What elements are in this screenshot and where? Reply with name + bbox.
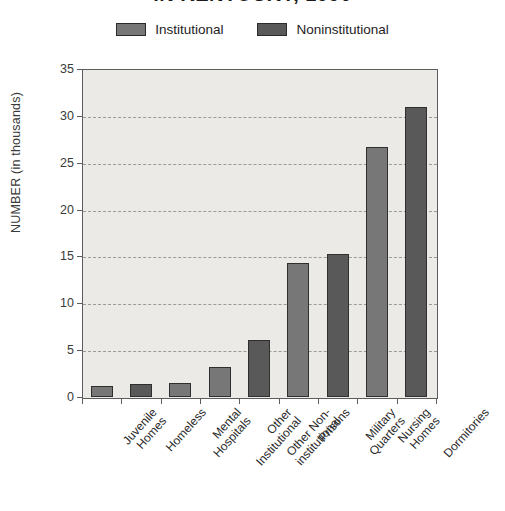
x-axis-tick <box>436 398 437 404</box>
y-axis-tick-label: 30 <box>48 109 74 123</box>
x-axis-tick-label: Dormitories <box>441 406 492 460</box>
bar <box>248 340 270 397</box>
chart-title: IN KENTUCKY, 1990 <box>0 0 505 6</box>
x-axis-tick <box>161 398 162 404</box>
y-axis-tick-label: 5 <box>48 343 74 357</box>
chart-page: IN KENTUCKY, 1990 Institutional Noninsti… <box>0 0 505 511</box>
x-axis-tick <box>397 398 398 404</box>
y-axis-tick-label: 25 <box>48 156 74 170</box>
legend-entry-noninstitutional: Noninstitutional <box>257 22 388 37</box>
y-axis-tick <box>77 116 82 117</box>
y-axis-tick <box>77 163 82 164</box>
x-axis-tick <box>200 398 201 404</box>
x-axis-tick <box>82 398 83 404</box>
y-axis-tick <box>77 350 82 351</box>
bar <box>327 254 349 397</box>
x-axis-tick <box>357 398 358 404</box>
y-axis-title: NUMBER (in thousands) <box>9 92 23 233</box>
x-axis-tick <box>318 398 319 404</box>
legend-swatch-institutional <box>116 23 146 36</box>
y-axis-tick-label: 35 <box>48 62 74 76</box>
legend-swatch-noninstitutional <box>257 23 287 36</box>
chart-legend: Institutional Noninstitutional <box>0 22 505 37</box>
y-axis-tick <box>77 303 82 304</box>
y-axis-tick-label: 15 <box>48 249 74 263</box>
legend-entry-institutional: Institutional <box>116 22 223 37</box>
legend-label-noninstitutional: Noninstitutional <box>296 22 388 37</box>
bar <box>91 386 113 397</box>
bar <box>209 367 231 397</box>
bar <box>169 383 191 397</box>
x-axis-tick-label: NursingHomes <box>395 406 442 454</box>
x-axis-tick <box>121 398 122 404</box>
bar <box>287 263 309 397</box>
bar <box>405 107 427 398</box>
y-axis-tick-label: 10 <box>48 296 74 310</box>
bar <box>130 384 152 397</box>
bar-layer <box>82 69 436 397</box>
x-axis-tick <box>239 398 240 404</box>
legend-label-institutional: Institutional <box>155 22 223 37</box>
y-axis-tick <box>77 69 82 70</box>
y-axis-tick-label: 20 <box>48 203 74 217</box>
y-axis-tick-label: 0 <box>48 390 74 404</box>
y-axis-tick <box>77 210 82 211</box>
x-axis-tick-label: Homeless <box>163 406 208 454</box>
x-axis-tick-label: JuvenileHomes <box>121 406 170 456</box>
y-axis-tick <box>77 256 82 257</box>
bar <box>366 147 388 397</box>
x-axis-tick <box>279 398 280 404</box>
